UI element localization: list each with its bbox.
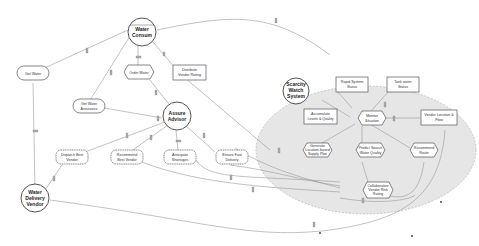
svg-text:Get Water: Get Water: [25, 72, 42, 76]
svg-text:Vendor: Vendor: [66, 158, 78, 162]
actor-assure-advisor[interactable]: Assure Advisor: [163, 102, 191, 130]
svg-text:Rapid System: Rapid System: [341, 80, 363, 84]
svg-text:Vendor Rating: Vendor Rating: [178, 73, 201, 77]
actor-scarcity-watch-system[interactable]: Scarcity Watch System: [283, 78, 309, 104]
node-collaborative-vendor-risk-rating[interactable]: Collaborative Vendor Risk Rating: [363, 182, 393, 198]
svg-text:Tank water: Tank water: [394, 80, 412, 84]
svg-text:System: System: [287, 93, 305, 99]
svg-text:Recommend: Recommend: [414, 146, 434, 150]
node-predict-source-water-quality[interactable]: Predict Source Water Quality: [356, 143, 385, 157]
svg-text:Predict Source: Predict Source: [359, 146, 383, 150]
node-get-water-assurance[interactable]: Get Water Assurance: [73, 99, 105, 113]
svg-text:Ensure Fast: Ensure Fast: [222, 153, 241, 157]
svg-text:Anticipate: Anticipate: [172, 153, 188, 157]
svg-text:Order Water: Order Water: [129, 71, 149, 75]
node-anticipate-shortages[interactable]: Anticipate Shortages: [164, 150, 196, 164]
svg-text:Dispatch Best: Dispatch Best: [61, 153, 83, 157]
node-distribute-vendor-rating[interactable]: Distribute Vendor Rating: [173, 65, 206, 80]
node-recommend-route[interactable]: Recommend Route: [410, 143, 438, 157]
node-dispatch-best-vendor[interactable]: Dispatch Best Vendor: [56, 150, 88, 164]
svg-text:Rating: Rating: [373, 192, 383, 196]
svg-text:Route: Route: [419, 151, 429, 155]
node-generate-location-based-supply-plan[interactable]: Generate Location-based Supply Plan: [303, 143, 332, 157]
svg-text:Vendor Location &: Vendor Location &: [424, 113, 454, 117]
svg-text:Best Vendor: Best Vendor: [117, 158, 137, 162]
node-get-water[interactable]: Get Water: [17, 66, 49, 80]
svg-text:Monitor: Monitor: [366, 114, 379, 118]
node-monitor-situation[interactable]: Monitor Situation: [358, 111, 386, 125]
svg-text:Recommend: Recommend: [117, 153, 137, 157]
node-tank-water-status[interactable]: Tank water Status: [387, 77, 419, 92]
svg-text:Delivery: Delivery: [226, 158, 239, 162]
node-ensure-fast-delivery[interactable]: Ensure Fast Delivery: [216, 150, 248, 164]
node-accumulate-levels-quality[interactable]: Accumulate Levels & Quality: [304, 109, 337, 124]
actor-water-delivery-vendor[interactable]: Water Delivery Vendor: [21, 184, 49, 212]
node-rapid-system-status[interactable]: Rapid System Status: [336, 77, 368, 92]
dependency-diagram: Water Consum Assure Advisor Water Delive…: [0, 0, 479, 246]
svg-text:Accumulate: Accumulate: [311, 112, 330, 116]
svg-text:Levels & Quality: Levels & Quality: [308, 117, 334, 121]
svg-text:Status: Status: [347, 85, 357, 89]
node-order-water[interactable]: Order Water: [124, 65, 154, 79]
svg-text:Shortages: Shortages: [172, 158, 189, 162]
svg-text:Assurance: Assurance: [81, 107, 98, 111]
node-recommend-best-vendor[interactable]: Recommend Best Vendor: [111, 150, 143, 164]
svg-text:Distribute: Distribute: [182, 68, 197, 72]
svg-text:Supply Plan: Supply Plan: [308, 152, 327, 156]
svg-text:Vendor: Vendor: [27, 201, 44, 207]
svg-text:Flow: Flow: [435, 118, 443, 122]
svg-text:Get Water: Get Water: [81, 102, 98, 106]
svg-text:Situation: Situation: [365, 119, 379, 123]
svg-text:Advisor: Advisor: [168, 116, 187, 122]
svg-text:Consum: Consum: [132, 32, 153, 38]
node-vendor-location-flow[interactable]: Vendor Location & Flow: [421, 110, 457, 125]
svg-text:Status: Status: [398, 85, 408, 89]
svg-text:Water Quality: Water Quality: [360, 151, 382, 155]
actor-water-consumer[interactable]: Water Consum: [128, 18, 156, 46]
